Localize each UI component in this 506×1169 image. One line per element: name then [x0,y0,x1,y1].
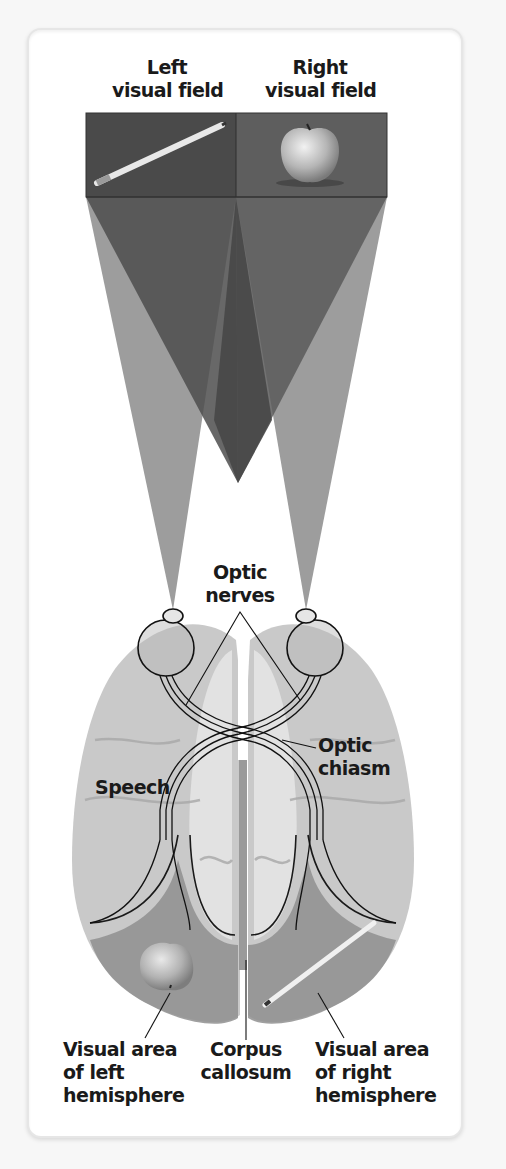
corpus-callosum-label: Corpus callosum [196,1038,296,1084]
left-visual-field-label: Left visual field [112,56,222,102]
visual-area-right-hemisphere-label: Visual area of right hemisphere [315,1038,436,1107]
right-visual-field-label: Right visual field [265,56,375,102]
optic-nerves-label: Optic nerves [195,561,285,607]
apple-projection-icon [140,943,193,991]
brain-illustration [72,624,414,1024]
optic-chiasm-label: Optic chiasm [318,734,390,780]
speech-label: Speech [95,776,170,799]
left-eye-icon [138,609,194,676]
light-rays [86,197,387,610]
visual-area-left-hemisphere-label: Visual area of left hemisphere [63,1038,184,1107]
right-eye-icon [287,609,343,676]
visual-field-box [86,113,387,197]
